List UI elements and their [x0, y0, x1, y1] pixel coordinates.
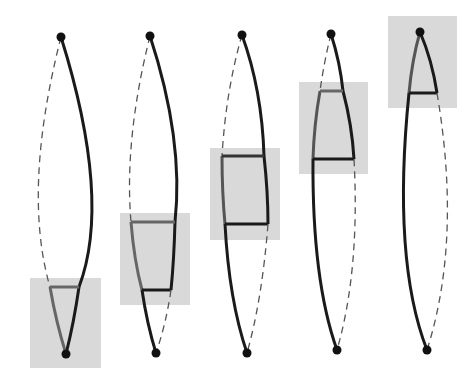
dashed-arc-left-upper — [130, 36, 150, 222]
solid-arc-right-upper — [242, 35, 264, 156]
lens-loop-diagram — [0, 0, 476, 378]
bottom-node — [423, 346, 432, 355]
bottom-node — [62, 350, 71, 359]
bottom-node — [152, 349, 161, 358]
solid-arc-left-lower — [225, 224, 247, 353]
figure-2 — [120, 32, 190, 358]
top-node — [146, 32, 155, 41]
solid-arc-left-lower — [313, 159, 337, 350]
dashed-arc-right-lower — [247, 224, 268, 353]
solid-arc-right — [61, 37, 92, 287]
solid-arc-right-upper — [150, 36, 177, 222]
bottom-node — [333, 346, 342, 355]
dashed-arc-right-lower — [337, 159, 355, 350]
figure-5 — [388, 16, 457, 355]
dashed-arc-right-lower — [427, 93, 447, 350]
dashed-arc-left — [38, 37, 61, 287]
shaded-window — [210, 148, 280, 240]
top-node — [57, 33, 66, 42]
figure-4 — [299, 30, 368, 355]
solid-arc-left-lower — [403, 93, 427, 350]
top-node — [416, 28, 425, 37]
top-node — [238, 31, 247, 40]
figure-3 — [210, 31, 280, 358]
figure-1 — [30, 33, 101, 369]
bottom-node — [243, 349, 252, 358]
dashed-arc-left-upper — [222, 35, 242, 156]
top-node — [327, 30, 336, 39]
